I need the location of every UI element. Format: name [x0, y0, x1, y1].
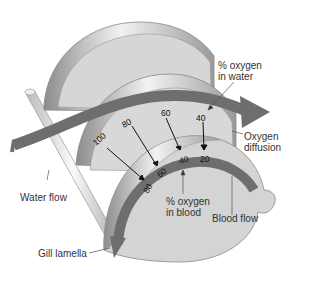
label-oxygen-in-blood: % oxygen in blood: [166, 196, 210, 218]
label-oxygen-in-water-line2: in water: [218, 71, 262, 82]
label-oxygen-in-blood-line2: in blood: [166, 207, 210, 218]
label-oxygen-diffusion-line1: Oxygen: [244, 131, 281, 142]
label-oxygen-in-blood-line1: % oxygen: [166, 196, 210, 207]
water-value-40: 40: [196, 113, 206, 123]
label-oxygen-in-water: % oxygen in water: [218, 60, 262, 82]
label-water-flow: Water flow: [20, 192, 67, 203]
label-oxygen-diffusion: Oxygen diffusion: [244, 131, 281, 153]
label-oxygen-diffusion-line2: diffusion: [244, 142, 281, 153]
label-oxygen-in-water-line1: % oxygen: [218, 60, 262, 71]
label-blood-flow: Blood flow: [212, 213, 258, 224]
label-gill-lamella: Gill lamella: [38, 248, 87, 259]
blood-value-20: 20: [200, 154, 210, 164]
water-value-60: 60: [161, 108, 171, 118]
